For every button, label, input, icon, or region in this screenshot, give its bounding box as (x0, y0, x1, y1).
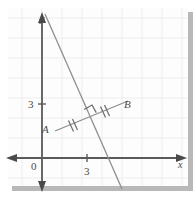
point-label-b: B (124, 99, 131, 110)
y-tick-label-3: 3 (28, 99, 34, 110)
perpendicular-bisector-line (45, 14, 122, 189)
y-axis-label: y (40, 14, 44, 24)
x-tick-label-3: 3 (84, 166, 90, 177)
point-label-a: A (42, 124, 49, 135)
coordinate-grid-figure: y x 0 3 3 A B (0, 0, 196, 199)
origin-label: 0 (31, 161, 37, 172)
y-axis (38, 12, 46, 192)
x-axis-label: x (178, 160, 182, 170)
